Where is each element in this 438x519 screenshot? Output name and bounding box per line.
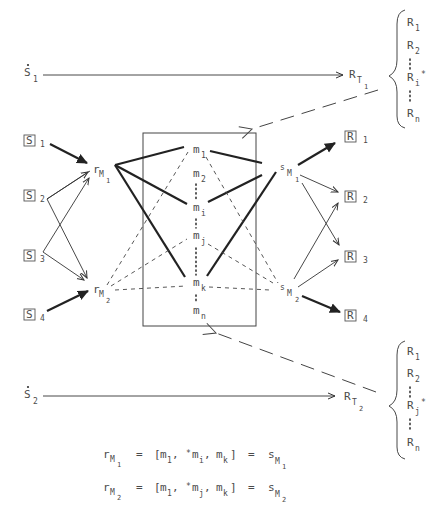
eq-equals: = xyxy=(248,481,255,494)
total-response-2: R T 2 xyxy=(344,390,363,413)
link-m1-sm1 xyxy=(210,151,262,163)
r-item: R xyxy=(407,399,414,412)
eq-lhs-base: r xyxy=(103,481,110,494)
rm-sub: M xyxy=(99,170,104,179)
arrow-s4-to-rm2 xyxy=(47,291,88,311)
sm-base: s xyxy=(280,283,285,292)
arrow-sm1-to-r1 xyxy=(298,143,335,165)
m-sub: j xyxy=(201,237,206,246)
eq-equals: = xyxy=(248,448,255,461)
r-item-star: * xyxy=(421,398,426,407)
eq-bracket: ] xyxy=(230,481,237,494)
r-item-sub: n xyxy=(415,444,420,453)
m-base: m xyxy=(193,229,200,242)
eq-rhs-base: s xyxy=(268,448,275,461)
r-glyph: R xyxy=(347,309,354,322)
sm-subsub: 2 xyxy=(295,296,299,304)
eq-term: m xyxy=(216,481,223,494)
eq-lhs-sub: M xyxy=(110,455,115,464)
rm-sub: M xyxy=(99,290,104,299)
eq-comma: , xyxy=(172,481,179,494)
meaning-components: m 1 m 2 m i m j m k m n xyxy=(193,143,206,321)
s-index: 4 xyxy=(40,314,45,323)
r-item-sub: 2 xyxy=(415,47,420,56)
eq-equals: = xyxy=(136,448,143,461)
stimulus-dot-2: S 2 xyxy=(24,386,38,406)
eq-term: m xyxy=(192,448,199,461)
m-sub: 2 xyxy=(201,175,206,184)
r-item: R xyxy=(407,345,414,358)
rt-base: R xyxy=(349,68,356,81)
m-base: m xyxy=(193,201,200,214)
mediation-diagram: S 1 R T 1 R 1 R 2 R i * R n S 1 S 2 S 3 xyxy=(0,0,438,519)
link-rm1-m1 xyxy=(115,147,184,165)
eq-term-sub: k xyxy=(223,456,228,465)
arrow-s1-to-rm1 xyxy=(50,144,87,163)
left-brace-icon-1 xyxy=(389,10,405,128)
eq-bracket: ] xyxy=(230,448,237,461)
rt-base: R xyxy=(344,390,351,403)
stimulus-dot-1: S 1 xyxy=(24,64,38,84)
arrow-s3-to-rm2 xyxy=(43,252,84,280)
s-m2: s M 2 xyxy=(280,283,299,304)
link-mk-sm1 xyxy=(207,172,276,276)
r-m2: r M 2 xyxy=(93,283,110,305)
r-index: 1 xyxy=(363,136,368,145)
eq-comma: , xyxy=(204,448,211,461)
left-brace-icon-2 xyxy=(389,341,405,459)
response-r2: R 2 xyxy=(345,190,368,205)
feedback-arrow-1 xyxy=(252,90,378,129)
rt-sub: T xyxy=(357,76,362,85)
eq-lhs-base: r xyxy=(103,448,110,461)
arrow-sm2-to-r3 xyxy=(298,260,338,287)
s-glyph: S xyxy=(26,189,33,202)
arrow-sm2-to-r4 xyxy=(302,296,340,312)
stimulus-index: 2 xyxy=(33,397,38,406)
link-rm1-mi xyxy=(115,165,187,204)
eq-term: m xyxy=(160,481,167,494)
rm-subsub: 1 xyxy=(106,177,110,185)
r-item: R xyxy=(407,71,414,84)
eq-equals: = xyxy=(136,481,143,494)
r-glyph: R xyxy=(347,250,354,263)
r-item-sub: n xyxy=(415,115,420,124)
eq-term: m xyxy=(216,448,223,461)
r-glyph: R xyxy=(347,190,354,203)
eq-rhs-subsub: 1 xyxy=(282,463,286,471)
response-r1: R 1 xyxy=(345,130,368,145)
response-r3: R 3 xyxy=(345,250,368,265)
m-sub: 1 xyxy=(201,151,206,160)
stimulus-s2: S 2 xyxy=(24,189,45,204)
response-r4: R 4 xyxy=(345,309,368,324)
stimulus-s4: S 4 xyxy=(24,308,45,323)
m-base: m xyxy=(193,167,200,180)
m-sub: k xyxy=(201,284,206,293)
sm-base: s xyxy=(280,163,285,172)
r-item: R xyxy=(407,367,414,380)
link-rm1-mk xyxy=(115,165,185,277)
response-set-1: R 1 R 2 R i * R n xyxy=(407,16,426,124)
eq-rhs-base: s xyxy=(268,481,275,494)
link-mi-sm1 xyxy=(208,175,262,202)
eq-rhs-subsub: 2 xyxy=(282,496,286,504)
m-base: m xyxy=(193,304,200,317)
r-index: 3 xyxy=(363,256,368,265)
r-item: R xyxy=(407,39,414,52)
eq-term-sub: k xyxy=(223,489,228,498)
m-base: m xyxy=(193,143,200,156)
m-sub: n xyxy=(201,312,206,321)
eq-comma: , xyxy=(172,448,179,461)
eq-star: * xyxy=(186,482,191,491)
r-item-sub: 2 xyxy=(415,375,420,384)
eq-rhs-sub: M xyxy=(275,490,280,499)
arrow-sm2-to-r2 xyxy=(294,203,338,279)
r-item-sub: 1 xyxy=(415,24,420,33)
stimulus-index: 1 xyxy=(33,75,38,84)
r-item: R xyxy=(407,436,414,449)
r-item: R xyxy=(407,16,414,29)
r-m1: r M 1 xyxy=(93,163,110,185)
eq-comma: , xyxy=(204,481,211,494)
r-item-sub: j xyxy=(415,407,420,416)
r-glyph: R xyxy=(347,130,354,143)
s-m1: s M 1 xyxy=(280,163,299,184)
